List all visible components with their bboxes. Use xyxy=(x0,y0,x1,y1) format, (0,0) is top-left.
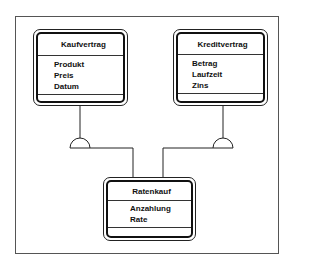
entity-title: Kreditvertrag xyxy=(178,34,263,55)
kreditvertrag-generalization-icon xyxy=(213,138,233,148)
entity-ratenkauf[interactable]: Ratenkauf Anzahlung Rate xyxy=(103,177,196,241)
attribute-laufzeit: Laufzeit xyxy=(192,69,263,80)
entity-operations xyxy=(38,95,123,101)
attribute-datum: Datum xyxy=(54,81,123,92)
entity-attributes: Anzahlung Rate xyxy=(108,201,191,228)
entity-ratenkauf-body: Ratenkauf Anzahlung Rate xyxy=(106,180,193,238)
attribute-anzahlung: Anzahlung xyxy=(130,203,191,214)
entity-title: Kaufvertrag xyxy=(38,34,123,56)
attribute-preis: Preis xyxy=(54,70,123,81)
attribute-betrag: Betrag xyxy=(192,58,263,69)
entity-kaufvertrag-body: Kaufvertrag Produkt Preis Datum xyxy=(36,32,125,103)
attribute-zins: Zins xyxy=(192,80,263,91)
entity-kreditvertrag[interactable]: Kreditvertrag Betrag Laufzeit Zins xyxy=(173,29,268,106)
attribute-rate: Rate xyxy=(130,214,191,225)
kaufvertrag-generalization-icon xyxy=(70,138,90,148)
attribute-produkt: Produkt xyxy=(54,59,123,70)
entity-kreditvertrag-body: Kreditvertrag Betrag Laufzeit Zins xyxy=(176,32,265,103)
entity-operations xyxy=(108,228,191,236)
entity-attributes: Produkt Preis Datum xyxy=(38,56,123,95)
ratenkauf-to-kreditvertrag-line xyxy=(163,148,213,178)
entity-title: Ratenkauf xyxy=(108,182,191,201)
ratenkauf-to-kaufvertrag-line xyxy=(90,148,133,178)
entity-kaufvertrag[interactable]: Kaufvertrag Produkt Preis Datum xyxy=(33,29,128,106)
entity-operations xyxy=(178,94,263,101)
entity-attributes: Betrag Laufzeit Zins xyxy=(178,55,263,94)
